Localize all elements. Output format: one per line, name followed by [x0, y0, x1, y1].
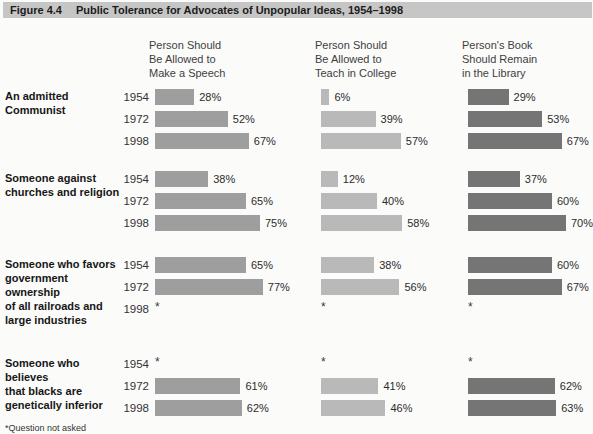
bar-value: 62% [242, 402, 269, 414]
bar-row: 75% [155, 212, 315, 234]
year-column: 195419721998 [121, 86, 149, 152]
bar-value: 28% [194, 91, 221, 103]
bar-column-college: 6%39%57% [315, 86, 462, 152]
bar [321, 89, 329, 105]
year-label: 1972 [121, 276, 149, 298]
bar-row: 62% [468, 375, 592, 397]
year-column: 195419721998 [121, 254, 149, 320]
bar [468, 193, 552, 209]
row-group-label: Someone against churches and religion [5, 168, 121, 199]
bar-row: 41% [321, 375, 462, 397]
row-group-label: Someone who favors government ownership … [5, 254, 121, 327]
column-header-speech: Person Should Be Allowed to Make a Speec… [149, 38, 315, 80]
bar [468, 133, 562, 149]
bar [321, 171, 338, 187]
bar-value: 77% [263, 281, 290, 293]
bar-row: 60% [468, 190, 593, 212]
bar-column-library: 29%53%67% [462, 86, 592, 152]
column-header-college: Person Should Be Allowed to Teach in Col… [315, 38, 462, 80]
bar [321, 257, 374, 273]
year-label: 1954 [121, 254, 149, 276]
bar-row: 67% [468, 130, 592, 152]
bar-value: 56% [399, 281, 426, 293]
bar-value: 61% [240, 380, 267, 392]
bar [468, 215, 566, 231]
bar-row: 12% [321, 168, 462, 190]
year-label: 1972 [121, 108, 149, 130]
bar-row: 62% [155, 397, 315, 419]
bar-column-library: 60%67%* [462, 254, 592, 320]
year-label: 1972 [121, 190, 149, 212]
missing-value-asterisk: * [155, 353, 160, 367]
bar [155, 193, 246, 209]
year-label: 1954 [121, 86, 149, 108]
bar-row: 60% [468, 254, 592, 276]
bar-column-speech: 38%65%75% [149, 168, 315, 234]
bar [321, 111, 376, 127]
bar [155, 111, 228, 127]
year-label: 1954 [121, 353, 149, 375]
bar-value: 38% [374, 259, 401, 271]
year-label: 1972 [121, 375, 149, 397]
bar-row: 61% [155, 375, 315, 397]
bar-row: 38% [155, 168, 315, 190]
year-label: 1998 [121, 397, 149, 419]
bar-value: 70% [566, 217, 593, 229]
bar-value: 39% [376, 113, 403, 125]
bar [321, 378, 378, 394]
bar-row: 37% [468, 168, 593, 190]
bar-row: * [321, 298, 462, 320]
bar-value: 67% [562, 135, 589, 147]
bar [468, 89, 509, 105]
bar-row: 77% [155, 276, 315, 298]
bar-value: 46% [385, 402, 412, 414]
bar [468, 171, 520, 187]
row-group-2: Someone against churches and religion195… [5, 168, 592, 234]
bar [321, 133, 401, 149]
bar [155, 279, 263, 295]
bar-value: 38% [208, 173, 235, 185]
missing-value-asterisk: * [321, 298, 326, 312]
bar [321, 400, 385, 416]
year-column: 195419721998 [121, 353, 149, 419]
missing-value-asterisk: * [155, 298, 160, 312]
bar-row: 65% [155, 254, 315, 276]
bar-row: * [468, 298, 592, 320]
bar-value: 53% [542, 113, 569, 125]
bar [155, 378, 240, 394]
bar-value: 63% [556, 402, 583, 414]
missing-value-asterisk: * [468, 298, 473, 312]
bar-value: 58% [402, 217, 429, 229]
bar-column-speech: *61%62% [149, 353, 315, 419]
bar-value: 41% [378, 380, 405, 392]
bar-row: * [468, 353, 592, 375]
bar [468, 400, 556, 416]
year-label: 1998 [121, 298, 149, 320]
bar [321, 193, 377, 209]
year-label: 1954 [121, 168, 149, 190]
bar-row: 67% [468, 276, 592, 298]
bar-row: 65% [155, 190, 315, 212]
bar-value: 37% [520, 173, 547, 185]
bar-value: 67% [249, 135, 276, 147]
bar-row: * [321, 353, 462, 375]
bar-row: 46% [321, 397, 462, 419]
bar-value: 67% [562, 281, 589, 293]
row-group-label: An admitted Communist [5, 86, 121, 117]
bar-row: 57% [321, 130, 462, 152]
bar-value: 6% [329, 91, 350, 103]
bar [468, 279, 562, 295]
bar [468, 111, 542, 127]
bar [155, 400, 242, 416]
bar-row: 40% [321, 190, 462, 212]
bar-row: 29% [468, 86, 592, 108]
bar-row: * [155, 298, 315, 320]
bar-value: 60% [552, 195, 579, 207]
bar [321, 215, 402, 231]
bar-value: 65% [246, 259, 273, 271]
bar-value: 57% [401, 135, 428, 147]
bar-value: 75% [260, 217, 287, 229]
bar-row: 53% [468, 108, 592, 130]
bar [155, 257, 246, 273]
footnote: *Question not asked [5, 423, 592, 433]
